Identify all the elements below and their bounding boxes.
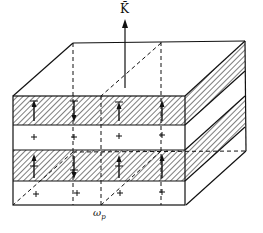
layered-block-diagram <box>0 0 263 233</box>
wave-vector-label: K̄ <box>120 2 129 16</box>
front-hatched-band-2 <box>13 150 185 181</box>
wave-vector-arrow <box>122 19 128 88</box>
diagram-canvas: K̄ ωp <box>0 0 263 233</box>
plasma-frequency-label: ωp <box>93 207 106 221</box>
front-hatched-band-1 <box>13 96 185 125</box>
frequency-subscript: p <box>101 213 105 221</box>
omega-symbol: ω <box>93 207 101 218</box>
